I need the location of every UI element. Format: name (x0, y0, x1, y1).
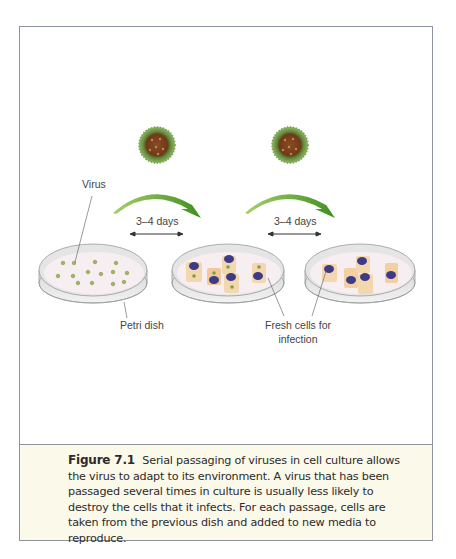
petri-dish-label: Petri dish (120, 319, 164, 331)
petri-dish-icon (39, 244, 147, 303)
interval-label-1: 3–4 days (136, 215, 179, 227)
virus-particle-icon (139, 127, 175, 163)
interval-label-2: 3–4 days (274, 215, 317, 227)
fresh-cells-label-line1: Fresh cells for (262, 319, 334, 331)
diagram-svg (0, 0, 456, 559)
double-arrow-icon (268, 232, 321, 236)
virus-particle-icon (272, 127, 308, 163)
double-arrow-icon (130, 232, 183, 236)
fresh-cells-label: Fresh cells for infection (262, 319, 334, 345)
petri-dish-icon (305, 244, 415, 303)
petri-dish-icon (172, 244, 284, 303)
fresh-cells-label-line2: infection (262, 333, 334, 345)
virus-label: Virus (82, 178, 106, 190)
